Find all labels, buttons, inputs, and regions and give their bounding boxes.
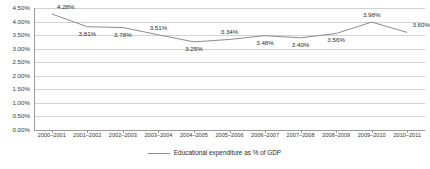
- x-axis-tick-label: 2004–2005: [180, 133, 208, 139]
- x-axis-tick-label: 2001–2002: [73, 133, 101, 139]
- x-axis-labels: 2000–20012001–20022002–20032003–20042004…: [34, 133, 425, 145]
- y-axis-tick-label: 4.00%: [0, 19, 30, 25]
- x-axis-tick-label: 2003–2004: [144, 133, 172, 139]
- legend-line-swatch: [148, 153, 170, 154]
- y-axis-tick-label: 1.50%: [0, 86, 30, 92]
- y-axis-labels: 4.50%4.00%3.50%3.00%2.50%2.00%1.50%1.00%…: [0, 8, 429, 130]
- x-axis-tick-label: 2005–2006: [216, 133, 244, 139]
- x-axis-tick-label: 2006–2007: [251, 133, 279, 139]
- y-axis-tick-label: 2.50%: [0, 59, 30, 65]
- x-axis-tick-label: 2002–2003: [109, 133, 137, 139]
- y-axis-tick-label: 1.00%: [0, 100, 30, 106]
- x-axis-tick-label: 2000–2001: [38, 133, 66, 139]
- y-axis-tick-label: 0.50%: [0, 113, 30, 119]
- x-axis-tick-label: 2008–2009: [322, 133, 350, 139]
- x-axis-tick-label: 2007–2008: [287, 133, 315, 139]
- y-axis-tick-label: 3.00%: [0, 46, 30, 52]
- x-axis-tick-label: 2010–2011: [393, 133, 421, 139]
- legend-label: Educational expenditure as % of GDP: [174, 150, 281, 156]
- chart-legend: Educational expenditure as % of GDP: [0, 150, 429, 156]
- y-axis-tick-label: 3.50%: [0, 32, 30, 38]
- y-axis-tick-label: 4.50%: [0, 5, 30, 11]
- x-axis-tick-label: 2009–2010: [358, 133, 386, 139]
- y-axis-tick-label: 0.00%: [0, 127, 30, 133]
- y-axis-tick-label: 2.00%: [0, 73, 30, 79]
